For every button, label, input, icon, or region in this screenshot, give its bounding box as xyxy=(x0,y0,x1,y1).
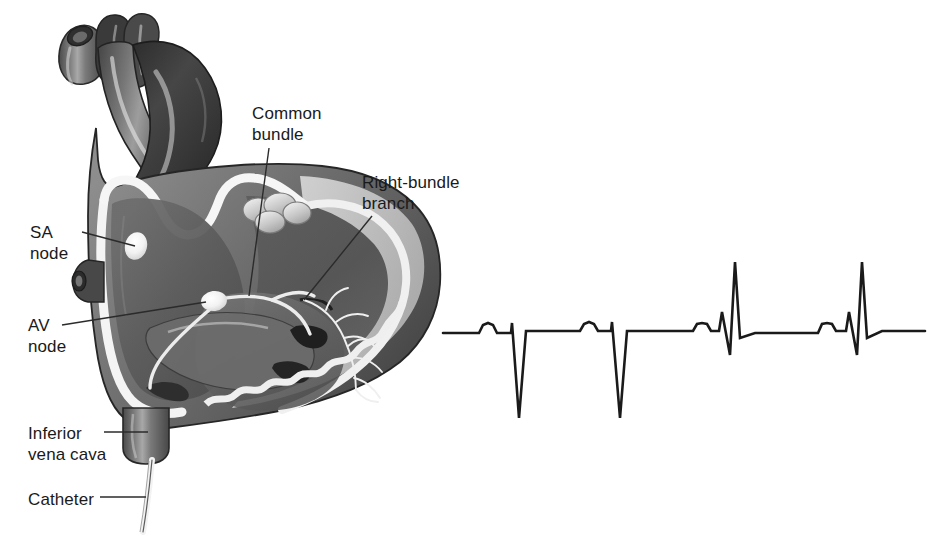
inferior-vena-cava-vessel xyxy=(123,408,169,464)
label-common-bundle: Common bundle xyxy=(252,103,322,145)
label-right-bundle-branch: Right-bundle branch xyxy=(362,172,460,214)
vein-stump xyxy=(72,260,104,302)
heart-illustration xyxy=(59,14,440,532)
figure-illustration xyxy=(0,0,948,540)
catheter-tube xyxy=(140,460,152,532)
ecg-waveform-line xyxy=(443,262,925,418)
label-catheter: Catheter xyxy=(28,489,94,510)
label-inferior-vena-cava: Inferior vena cava xyxy=(28,423,106,465)
label-sa-node: SA node xyxy=(30,222,68,264)
figure-canvas: SA node AV node Inferior vena cava Cathe… xyxy=(0,0,948,540)
ecg-tracing xyxy=(443,262,925,418)
label-av-node: AV node xyxy=(28,315,66,357)
